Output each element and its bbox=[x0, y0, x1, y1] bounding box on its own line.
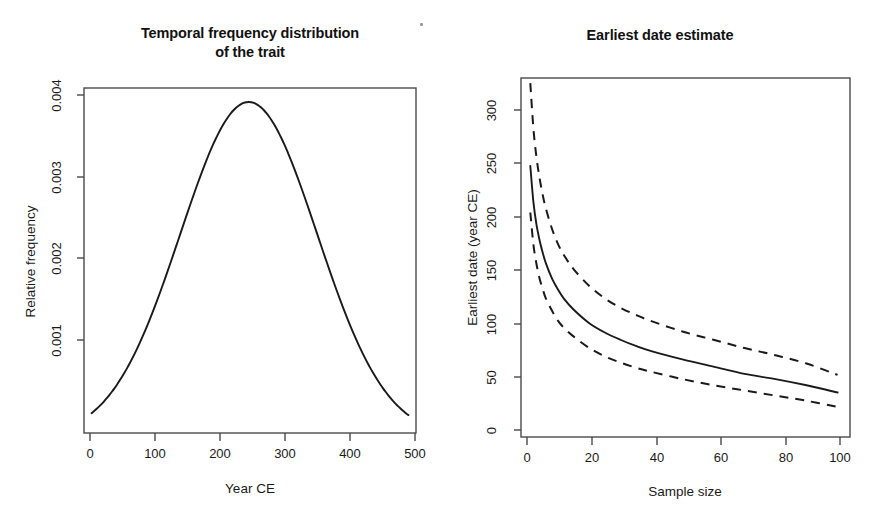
x-axis-ticks-right bbox=[527, 437, 840, 445]
panel-temporal-frequency: Temporal frequency distribution of the t… bbox=[0, 0, 460, 511]
y-tick-label: 250 bbox=[484, 144, 499, 184]
x-tick-label: 200 bbox=[190, 446, 250, 461]
x-tick-label: 300 bbox=[255, 446, 315, 461]
x-tick-label: 500 bbox=[385, 446, 445, 461]
x-tick-label: 20 bbox=[562, 450, 622, 465]
y-tick-label: 0 bbox=[484, 417, 499, 445]
y-tick-label: 150 bbox=[484, 251, 499, 291]
lower-bound-curve bbox=[530, 213, 837, 408]
plot-area-left bbox=[0, 0, 460, 511]
x-tick-label: 100 bbox=[125, 446, 185, 461]
y-tick-label: 200 bbox=[484, 198, 499, 238]
plot-area-right bbox=[440, 0, 869, 511]
x-tick-label: 60 bbox=[691, 450, 751, 465]
x-axis-ticks-left bbox=[90, 433, 415, 441]
x-axis-title: Year CE bbox=[180, 481, 320, 496]
y-tick-label: 0.002 bbox=[49, 237, 64, 281]
y-tick-label: 0.004 bbox=[49, 74, 64, 118]
x-tick-label: 80 bbox=[756, 450, 816, 465]
scan-speck-artifact bbox=[420, 23, 423, 26]
y-tick-label: 0.001 bbox=[49, 319, 64, 363]
density-curve bbox=[92, 102, 409, 415]
upper-bound-curve bbox=[530, 83, 837, 375]
y-axis-ticks-right bbox=[514, 110, 521, 430]
y-axis-title: Relative frequency bbox=[23, 182, 38, 342]
y-tick-label: 50 bbox=[484, 361, 499, 395]
y-axis-title: Earliest date (year CE) bbox=[465, 163, 480, 353]
y-tick-label: 100 bbox=[484, 305, 499, 345]
y-tick-label: 300 bbox=[484, 91, 499, 131]
x-tick-label: 40 bbox=[627, 450, 687, 465]
two-panel-figure: Temporal frequency distribution of the t… bbox=[0, 0, 869, 511]
plot-box-left bbox=[84, 88, 416, 433]
x-tick-label: 100 bbox=[810, 450, 869, 465]
x-tick-label: 0 bbox=[497, 450, 557, 465]
panel-earliest-date: Earliest date estimate bbox=[440, 0, 869, 511]
y-tick-label: 0.003 bbox=[49, 156, 64, 200]
x-axis-title: Sample size bbox=[615, 484, 755, 499]
x-tick-label: 400 bbox=[320, 446, 380, 461]
y-axis-ticks-left bbox=[77, 95, 84, 340]
x-tick-label: 0 bbox=[60, 446, 120, 461]
